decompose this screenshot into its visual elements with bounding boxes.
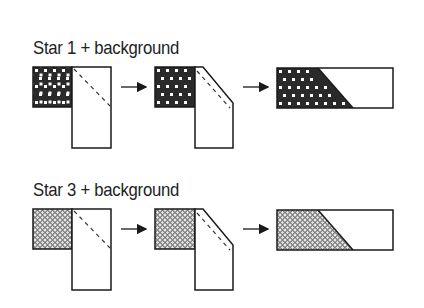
row2-step2 <box>155 209 233 290</box>
row2-step1 <box>33 209 111 290</box>
row1-step3 <box>277 68 393 108</box>
row1-step2 <box>155 67 233 148</box>
row1-step1 <box>33 67 111 148</box>
row2-step3 <box>277 210 393 250</box>
diagram-canvas <box>0 0 424 308</box>
